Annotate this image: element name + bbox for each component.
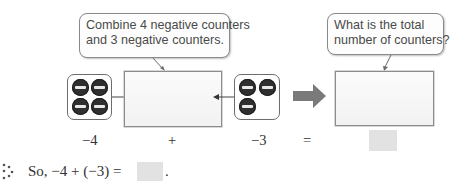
callout-total-line1: What is the total [334,18,437,33]
negative-counter-icon [72,79,89,96]
plus-sign: + [168,132,176,149]
negative-counter-icon [91,79,108,96]
arrow-left-icon [212,92,234,102]
result-workspace-box [335,71,434,126]
conclusion-period: . [165,163,169,180]
negative-counter-icon [239,98,256,115]
negative-counter-icon [259,79,276,96]
callout-combine-line2: and 3 negative counters. [86,33,223,48]
therefore-dots-icon [1,162,15,182]
callout-combine: Combine 4 negative counters and 3 negati… [79,13,230,58]
negative-counter-icon [72,98,89,115]
left-group-label: −4 [82,132,97,149]
counter-group-negative-3 [234,74,280,120]
callout-combine-line1: Combine 4 negative counters [86,18,223,33]
big-arrow-right-icon [293,84,327,108]
combine-workspace-box [124,71,222,127]
negative-counter-icon [239,79,256,96]
callout-pointer-icon [380,54,396,72]
negative-counter-icon [91,98,108,115]
right-group-label: −3 [251,132,266,149]
counter-group-negative-4 [67,74,112,120]
conclusion-answer-blank[interactable] [137,162,163,181]
conclusion-text: So, −4 + (−3) = [28,163,121,180]
equals-sign: = [303,132,311,149]
callout-total: What is the total number of counters? [327,13,444,55]
answer-blank[interactable] [369,130,397,151]
callout-total-line2: number of counters? [334,33,437,48]
